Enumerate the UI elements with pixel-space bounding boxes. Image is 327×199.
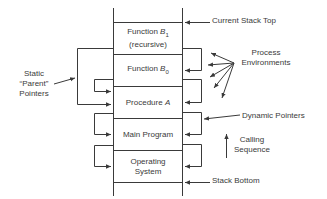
process-env-arrow-5 [222, 63, 234, 98]
static-pointer-b1-to-a [78, 49, 114, 105]
frame-b1-sub: 1 [165, 32, 168, 38]
label-process-environments: Process Environments [236, 48, 296, 68]
frame-a-var: A [165, 98, 170, 107]
label-calling-line2: Sequence [232, 145, 272, 155]
frame-os-line1: Operating [130, 157, 165, 167]
process-env-arrow-4 [214, 63, 234, 88]
dynamic-pointer-main-to-os [183, 145, 202, 167]
label-static-line3: Pointers [14, 89, 54, 99]
static-pointer-b0-to-a [95, 80, 114, 92]
dynamic-pointer-a-to-main [183, 113, 202, 135]
label-process-environments-line2: Environments [236, 58, 296, 68]
frame-a-title: Procedure [126, 98, 165, 107]
frame-b1-note: (recursive) [129, 40, 167, 50]
dynamic-pointers-label-arrow [204, 115, 240, 119]
label-static-line1: Static [14, 69, 54, 79]
frame-main-program: Main Program [114, 119, 182, 150]
label-dynamic-pointers: Dynamic Pointers [242, 111, 305, 121]
frame-b1-title: Function [127, 27, 160, 36]
static-pointer-main-to-os [95, 146, 114, 167]
dynamic-pointer-b1-to-b0 [183, 49, 202, 71]
label-static-parent-pointers: Static “Parent” Pointers [14, 69, 54, 99]
frame-function-b1: Function B1 (recursive) [114, 23, 182, 54]
label-current-stack-top: Current Stack Top [212, 16, 276, 26]
static-pointer-a-to-main [95, 114, 114, 135]
frame-procedure-a: Procedure A [114, 87, 182, 118]
frame-os-line2: System [135, 167, 162, 177]
frame-operating-system: Operating System [114, 151, 182, 182]
static-parent-label-arrow [54, 78, 75, 84]
frame-function-b0: Function B0 [114, 55, 182, 86]
label-static-line2: “Parent” [14, 79, 54, 89]
label-stack-bottom: Stack Bottom [212, 176, 260, 186]
label-calling-sequence: Calling Sequence [232, 135, 272, 155]
process-env-arrow-1 [211, 53, 234, 63]
label-calling-line1: Calling [232, 135, 272, 145]
dynamic-pointer-b0-to-a [183, 80, 202, 103]
frame-b0-title: Function [127, 64, 160, 73]
frame-b0-sub: 0 [165, 69, 168, 75]
frame-main-title: Main Program [123, 130, 173, 140]
label-process-environments-line1: Process [236, 48, 296, 58]
